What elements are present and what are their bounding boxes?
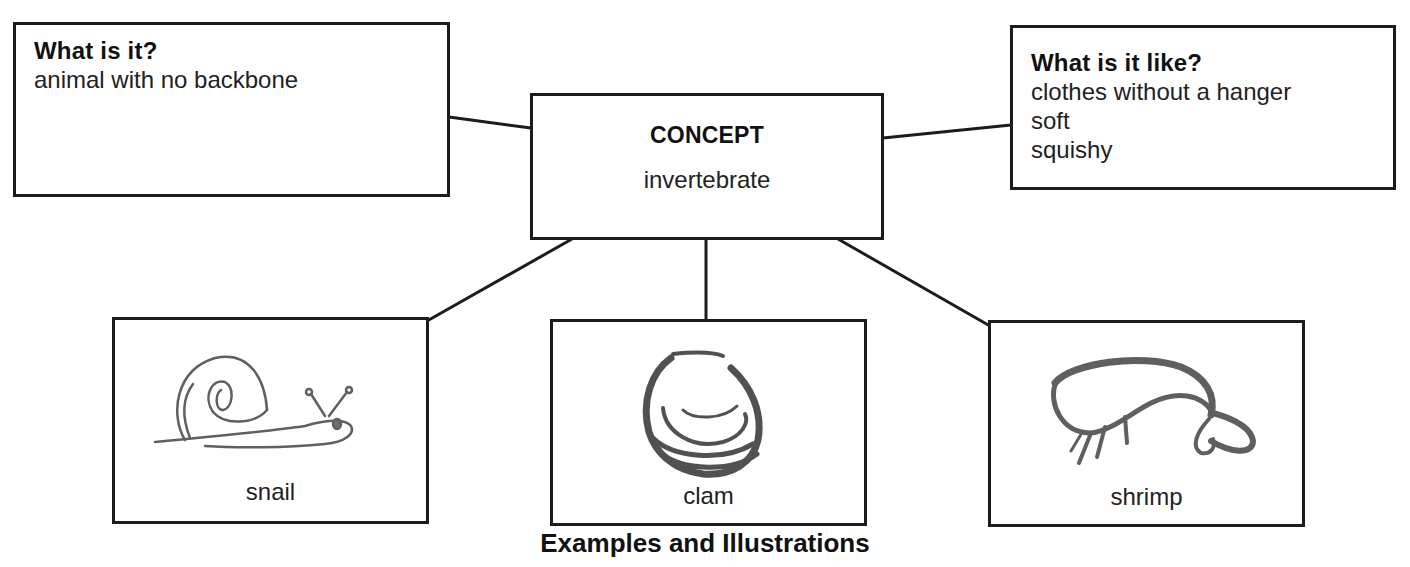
example-label: clam — [553, 482, 864, 510]
example-box-snail: snail — [112, 317, 429, 524]
example-label: snail — [115, 478, 426, 506]
example-label: shrimp — [991, 483, 1302, 511]
definition-box: What is it? animal with no backbone — [13, 22, 450, 197]
concept-term: invertebrate — [533, 165, 881, 194]
connector-properties — [883, 125, 1011, 138]
definition-heading: What is it? — [34, 37, 447, 65]
connector-snail — [427, 239, 572, 321]
concept-heading: CONCEPT — [533, 121, 881, 149]
property-line: soft — [1031, 106, 1393, 135]
definition-line: animal with no backbone — [34, 65, 447, 94]
property-line: squishy — [1031, 135, 1393, 164]
property-line: clothes without a hanger — [1031, 77, 1393, 106]
concept-box: CONCEPT invertebrate — [530, 93, 884, 240]
connector-definition — [449, 117, 531, 128]
properties-heading: What is it like? — [1031, 49, 1393, 77]
properties-box: What is it like? clothes without a hange… — [1010, 25, 1396, 190]
examples-caption: Examples and Illustrations — [0, 528, 1410, 559]
example-box-shrimp: shrimp — [988, 320, 1305, 527]
connector-shrimp — [838, 239, 990, 326]
example-box-clam: clam — [550, 319, 867, 526]
